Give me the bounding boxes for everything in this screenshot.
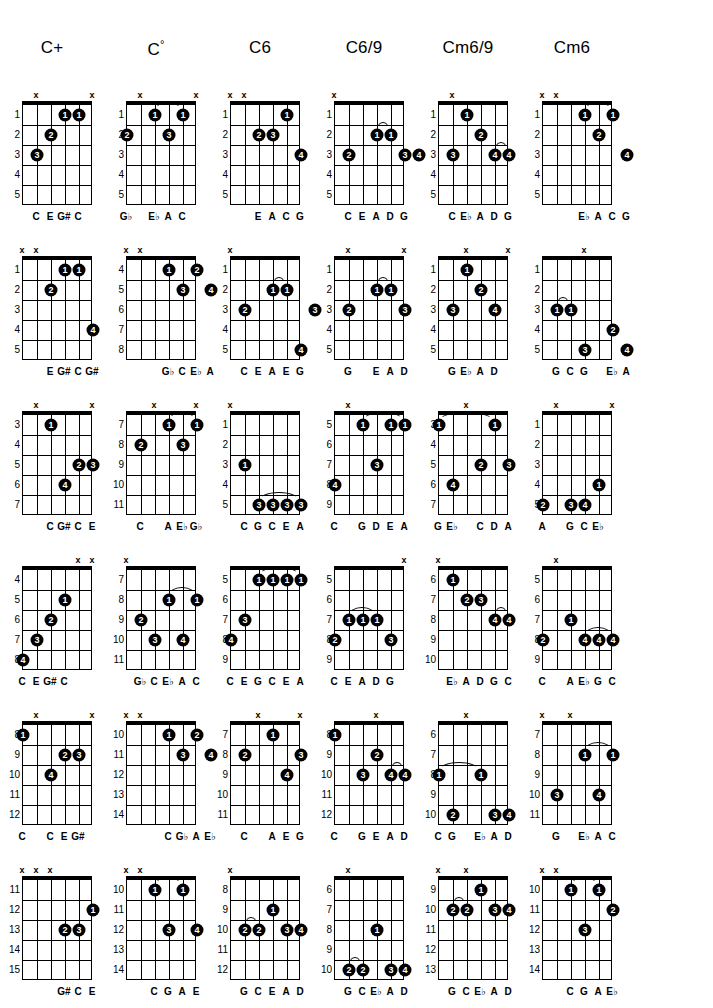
chord-cell-cm6-4[interactable]: x1244456789CAE♭GC xyxy=(520,543,624,698)
fretboard: 11234678910 xyxy=(438,721,508,825)
chord-cell-cdim-5[interactable]: xx12341011121314CG♭AE♭ xyxy=(104,698,208,853)
chord-cell-c6-2[interactable]: x1123412345CEAEG xyxy=(208,233,312,388)
chord-cell-cm69-2[interactable]: xx123412345GE♭AD xyxy=(416,233,520,388)
chord-diagram-c-plus-2[interactable]: xx112412345EG#CG# xyxy=(22,245,92,379)
chord-diagram-c6-5[interactable]: xx12347891011CAEG xyxy=(230,710,300,844)
note-name-row: GE♭AC xyxy=(542,830,612,844)
chord-cell-c69-3[interactable]: x1113456789CGDEA xyxy=(312,388,416,543)
chord-diagram-cm69-3[interactable]: x1123434567GE♭CDA xyxy=(438,400,508,534)
chord-cell-cdim-1[interactable]: xx112312345G♭E♭AC xyxy=(104,78,208,233)
chord-diagram-cm69-5[interactable]: x11234678910CGE♭AD xyxy=(438,710,508,844)
chord-diagram-c6-2[interactable]: x1123412345CEAEG xyxy=(230,245,300,379)
chord-diagram-cm6-1[interactable]: xx112412345E♭ACG xyxy=(542,90,612,224)
chord-diagram-cm6-2[interactable]: x1123412345GCGE♭A xyxy=(542,245,612,379)
string-line xyxy=(391,570,392,669)
finger-dot: 1 xyxy=(281,109,294,122)
chord-cell-c69-6[interactable]: x12234678910GCE♭AD xyxy=(312,853,416,1008)
chord-cell-cm6-3[interactable]: xx123412345AGCE♭ xyxy=(520,388,624,543)
chord-cell-c6-3[interactable]: x1333312345CGCEA xyxy=(208,388,312,543)
fret-line xyxy=(231,610,299,611)
chord-diagram-cdim-2[interactable]: xx123445678G♭CE♭A xyxy=(126,245,196,379)
chord-diagram-cm6-3[interactable]: xx123412345AGCE♭ xyxy=(542,400,612,534)
chord-diagram-cm69-2[interactable]: xx123412345GE♭AD xyxy=(438,245,508,379)
chord-cell-cm69-6[interactable]: xx12234910111213GCE♭AD xyxy=(416,853,520,1008)
fret-line xyxy=(439,960,507,961)
chord-cell-c-plus-6[interactable]: xxx1231112131415G#CE xyxy=(0,853,104,1008)
chord-cell-cm69-1[interactable]: x1234412345CE♭ADG xyxy=(416,78,520,233)
fret-number: 8 xyxy=(314,925,332,935)
chord-diagram-c69-5[interactable]: x1234489101112CGEAD xyxy=(334,710,404,844)
chord-cell-cm6-2[interactable]: x1123412345GCGE♭A xyxy=(520,233,624,388)
note-name: G♭ xyxy=(134,675,147,688)
chord-diagram-c69-4[interactable]: x1112356789CEADG xyxy=(334,555,404,689)
chord-cell-cm69-5[interactable]: x11234678910CGE♭AD xyxy=(416,698,520,853)
chord-cell-c69-5[interactable]: x1234489101112CGEAD xyxy=(312,698,416,853)
chord-cell-cdim-3[interactable]: xx11237891011CAE♭G♭ xyxy=(104,388,208,543)
note-name-row: CG#CE xyxy=(22,520,92,534)
fret-number: 8 xyxy=(210,885,228,895)
chord-cell-c-plus-1[interactable]: xx112312345CEG#C xyxy=(0,78,104,233)
chord-diagram-c69-2[interactable]: xx112312345GEAD xyxy=(334,245,404,379)
chord-cell-cdim-2[interactable]: xx123445678G♭CE♭A xyxy=(104,233,208,388)
chord-cell-c-plus-5[interactable]: xx123489101112CCEG# xyxy=(0,698,104,853)
chord-cell-cm6-5[interactable]: xx11347891011GE♭AC xyxy=(520,698,624,853)
chord-cell-c-plus-2[interactable]: xx112412345EG#CG# xyxy=(0,233,104,388)
chord-diagram-c69-1[interactable]: x1123412345CEADG xyxy=(334,90,404,224)
chord-diagram-cm6-4[interactable]: x1244456789CAE♭GC xyxy=(542,555,612,689)
chord-diagram-cm69-4[interactable]: x12344678910E♭ADGC xyxy=(438,555,508,689)
note-name: C xyxy=(178,210,185,223)
fret-line xyxy=(231,280,299,281)
fret-number: 2 xyxy=(418,285,436,295)
fret-number: 4 xyxy=(314,325,332,335)
chord-diagram-c-plus-4[interactable]: xx123445678CEG#C xyxy=(22,555,92,689)
chord-cell-c6-6[interactable]: x1223489101112GCEAD xyxy=(208,853,312,1008)
chord-cell-c69-4[interactable]: x1112356789CEADG xyxy=(312,543,416,698)
chord-diagram-cdim-3[interactable]: xx11237891011CAE♭G♭ xyxy=(126,400,196,534)
chord-name-label: C xyxy=(147,40,159,59)
muted-string-icon: x xyxy=(151,400,156,411)
fret-line xyxy=(335,455,403,456)
finger-dot: 2 xyxy=(607,904,620,917)
chord-cell-c6-5[interactable]: xx12347891011CAEG xyxy=(208,698,312,853)
chord-diagram-cdim-6[interactable]: xx11341011121314CGAE xyxy=(126,865,196,999)
chord-diagram-c-plus-3[interactable]: xx123434567CG#CE xyxy=(22,400,92,534)
chord-diagram-c-plus-1[interactable]: xx112312345CEG#C xyxy=(22,90,92,224)
chord-cell-cm6-1[interactable]: xx112412345E♭ACG xyxy=(520,78,624,233)
chord-cell-c6-4[interactable]: 11113456789CEGCEA xyxy=(208,543,312,698)
string-line xyxy=(79,725,80,824)
chord-cell-cm69-3[interactable]: x1123434567GE♭CDA xyxy=(416,388,520,543)
fret-line xyxy=(23,475,91,476)
fret-number: 3 xyxy=(418,420,436,430)
chord-diagram-cm69-6[interactable]: xx12234910111213GCE♭AD xyxy=(438,865,508,999)
chord-cell-cdim-6[interactable]: xx11341011121314CGAE xyxy=(104,853,208,1008)
chord-diagram-c6-1[interactable]: xx123412345EACG xyxy=(230,90,300,224)
chord-cell-c69-1[interactable]: x1123412345CEADG xyxy=(312,78,416,233)
chord-cell-c-plus-4[interactable]: xx123445678CEG#C xyxy=(0,543,104,698)
chord-diagram-cdim-1[interactable]: xx112312345G♭E♭AC xyxy=(126,90,196,224)
chord-cell-cdim-4[interactable]: x112347891011G♭CE♭AC xyxy=(104,543,208,698)
chord-cell-cm6-6[interactable]: xx11231011121314CGAE♭ xyxy=(520,853,624,1008)
chord-diagram-cm6-6[interactable]: xx11231011121314CGAE♭ xyxy=(542,865,612,999)
chord-diagram-c6-6[interactable]: x1223489101112GCEAD xyxy=(230,865,300,999)
chord-diagram-c6-3[interactable]: x1333312345CGCEA xyxy=(230,400,300,534)
fret-line xyxy=(439,125,507,126)
chord-diagram-c69-6[interactable]: x12234678910GCE♭AD xyxy=(334,865,404,999)
chord-diagram-c-plus-5[interactable]: xx123489101112CCEG# xyxy=(22,710,92,844)
fret-line xyxy=(127,185,195,186)
fret-grid: 1234 xyxy=(542,415,612,515)
chord-diagram-cm69-1[interactable]: x1234412345CE♭ADG xyxy=(438,90,508,224)
chord-cell-c-plus-3[interactable]: xx123434567CG#CE xyxy=(0,388,104,543)
chord-diagram-c-plus-6[interactable]: xxx1231112131415G#CE xyxy=(22,865,92,999)
chord-cell-cm69-4[interactable]: x12344678910E♭ADGC xyxy=(416,543,520,698)
fret-number: 7 xyxy=(314,905,332,915)
chord-diagram-cdim-5[interactable]: xx12341011121314CG♭AE♭ xyxy=(126,710,196,844)
chord-cell-c6-1[interactable]: xx123412345EACG xyxy=(208,78,312,233)
fret-number: 6 xyxy=(418,480,436,490)
chord-diagram-cdim-4[interactable]: x112347891011G♭CE♭AC xyxy=(126,555,196,689)
chord-diagram-c69-3[interactable]: x1113456789CGDEA xyxy=(334,400,404,534)
fret-number: 9 xyxy=(314,655,332,665)
chord-diagram-c6-4[interactable]: 11113456789CEGCEA xyxy=(230,555,300,689)
chord-cell-c69-2[interactable]: xx112312345GEAD xyxy=(312,233,416,388)
chord-diagram-cm6-5[interactable]: xx11347891011GE♭AC xyxy=(542,710,612,844)
fret-number: 4 xyxy=(418,170,436,180)
